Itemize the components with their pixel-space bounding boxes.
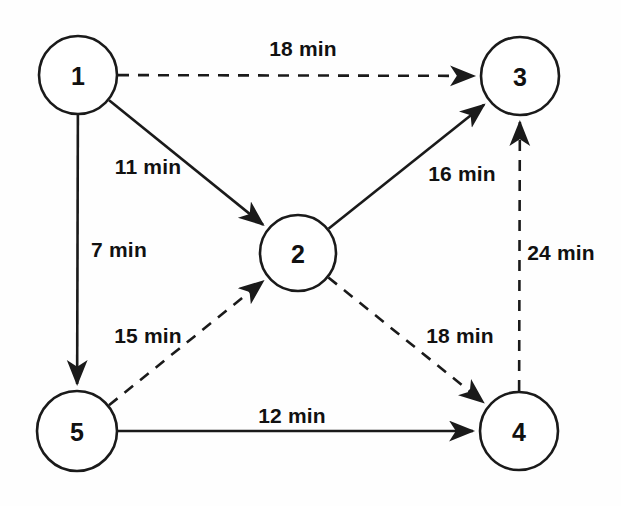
network-diagram: 12345 18 min18 min11 min11 min7 min7 min… — [0, 0, 621, 506]
node-label-2: 2 — [291, 240, 305, 268]
edge-label-1-to-5: 7 min — [91, 238, 147, 261]
edge-label-4-to-3: 24 min — [527, 241, 595, 264]
edge-label-1-to-2: 11 min — [115, 155, 182, 178]
edge-label-2-to-3: 16 min — [428, 162, 496, 185]
node-label-5: 5 — [70, 418, 84, 446]
edge-label-2-to-4: 18 min — [426, 324, 494, 347]
node-3[interactable]: 3 — [481, 37, 559, 115]
node-label-1: 1 — [71, 62, 85, 90]
edge-1-to-5 — [77, 115, 78, 384]
diagram-canvas: 12345 18 min18 min11 min11 min7 min7 min… — [0, 0, 621, 506]
edge-1-to-3 — [118, 75, 474, 76]
edge-label-5-to-2: 15 min — [114, 324, 182, 347]
edge-label-5-to-4: 12 min — [258, 404, 326, 427]
edge-label-1-to-3: 18 min — [269, 37, 337, 60]
node-5[interactable]: 5 — [37, 391, 117, 471]
node-label-4: 4 — [512, 418, 526, 446]
node-2[interactable]: 2 — [260, 215, 336, 291]
node-1[interactable]: 1 — [39, 36, 117, 114]
node-label-3: 3 — [513, 63, 527, 91]
node-4[interactable]: 4 — [480, 392, 558, 470]
edge-4-to-3 — [519, 122, 520, 391]
